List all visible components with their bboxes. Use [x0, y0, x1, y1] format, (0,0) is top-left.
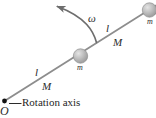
lower-segment-mass-label: M: [42, 81, 51, 92]
upper-segment-length-label: l: [106, 23, 109, 34]
middle-sphere-mass-label: m: [77, 64, 83, 72]
upper-segment-mass-label: M: [113, 37, 122, 48]
rotating-rod-diagram: l M m l M m ω O Rotation axis: [0, 0, 156, 118]
pivot-label: O: [0, 105, 9, 117]
outer-sphere-mass-label: m: [147, 18, 153, 26]
rotation-axis-caption: Rotation axis: [22, 97, 80, 108]
angular-velocity-label: ω: [88, 13, 96, 24]
sphere-middle-icon: [73, 49, 87, 63]
pivot-point-icon: [2, 99, 7, 104]
lower-segment-length-label: l: [35, 67, 38, 78]
sphere-outer-icon: [142, 3, 156, 17]
